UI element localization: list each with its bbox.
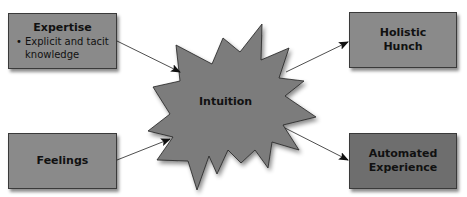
expertise-box: Expertise •Explicit and tacit knowledge (8, 13, 117, 69)
feelings-box: Feelings (8, 133, 117, 189)
holistic-hunch-title-line2: Hunch (383, 40, 422, 54)
arrow-intuition-to-hunch (286, 42, 348, 72)
automated-experience-title-line2: Experience (369, 161, 437, 175)
expertise-bullet: •Explicit and tacit knowledge (9, 35, 109, 61)
intuition-label: Intuition (199, 95, 252, 108)
holistic-hunch-title-line1: Holistic (380, 26, 426, 40)
arrow-expertise-to-intuition (117, 41, 180, 72)
bullet-icon: • (16, 35, 25, 48)
holistic-hunch-box: Holistic Hunch (349, 12, 457, 68)
expertise-title: Expertise (33, 21, 91, 35)
automated-experience-box: Automated Experience (349, 133, 457, 189)
automated-experience-title-line1: Automated (369, 147, 438, 161)
feelings-title: Feelings (37, 154, 89, 168)
